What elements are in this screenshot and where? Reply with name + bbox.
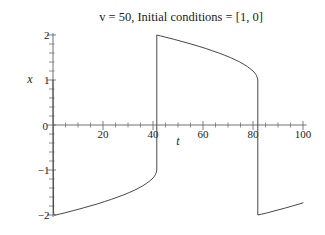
y-tick-label: 1 bbox=[44, 74, 50, 86]
y-tick-label: −1 bbox=[38, 164, 50, 176]
axes bbox=[53, 33, 307, 217]
vanderpol-line-chart: v = 50, Initial conditions = [1, 0] 2040… bbox=[0, 0, 325, 235]
x-tick-label: 20 bbox=[98, 128, 110, 140]
origin-tick-label: 0 bbox=[43, 120, 49, 132]
x-tick-label: 80 bbox=[248, 128, 260, 140]
x-tick-label: 100 bbox=[295, 128, 312, 140]
chart-title: v = 50, Initial conditions = [1, 0] bbox=[99, 10, 263, 24]
y-tick-label: 2 bbox=[44, 29, 50, 41]
x-axis-label: t bbox=[176, 134, 180, 148]
y-tick-label: −2 bbox=[38, 209, 50, 221]
x-tick-label: 60 bbox=[198, 128, 210, 140]
y-axis-label: x bbox=[26, 72, 33, 86]
plot-window: v = 50, Initial conditions = [1, 0] 2040… bbox=[0, 0, 325, 235]
